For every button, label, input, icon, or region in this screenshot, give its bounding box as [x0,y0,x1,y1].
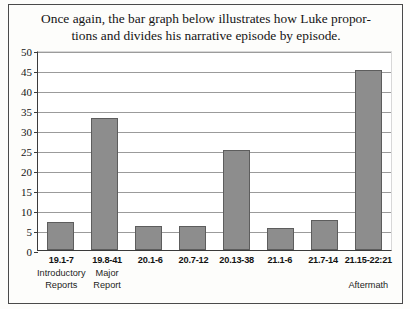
figure-caption: Once again, the bar graph below illustra… [22,11,390,44]
bar-series [38,52,391,250]
bar-slot [215,52,259,250]
x-axis-tick-label: 20.1-6 [129,255,172,267]
y-axis-tick-label: 35 [21,106,32,118]
caption-line-2: tions and divides his narrative episode … [22,28,390,45]
bar-chart: 05101520253035404550 19.1-7IntroductoryR… [15,47,396,299]
x-axis-label-group: 21.1-6.. [258,255,301,292]
x-axis-labels: 19.1-7IntroductoryReports19.8-41MajorRep… [37,255,392,292]
bar-slot [347,52,391,250]
x-axis-description-line: Reports [37,280,86,292]
x-axis-tick-label: 21.15-22:21 [345,255,392,267]
y-axis-tick-label: 25 [21,146,32,158]
x-axis-description-line: Report [86,280,129,292]
x-axis-label-group: 20.7-12.. [172,255,215,292]
bar-slot [170,52,214,250]
y-axis-tick-label: 0 [27,246,33,258]
bar[interactable] [311,220,338,250]
plot-area: 05101520253035404550 [37,51,392,251]
y-axis-tick-label: 45 [21,66,32,78]
bar[interactable] [355,70,382,250]
x-axis-label-group: 20.13-38.. [215,255,258,292]
y-axis-tick-label: 30 [21,126,32,138]
y-axis-tick-label: 20 [21,166,32,178]
bar-slot [259,52,303,250]
bar[interactable] [91,118,118,250]
x-axis-label-group: 20.1-6.. [129,255,172,292]
x-axis-tick-label: 21.7-14 [301,255,344,267]
x-axis-tick-label: 20.7-12 [172,255,215,267]
bar-slot [82,52,126,250]
bar[interactable] [47,222,74,250]
bar-slot [38,52,82,250]
figure-page: Once again, the bar graph below illustra… [0,0,410,309]
y-axis-tick-label: 5 [27,226,33,238]
x-axis-description-line: Aftermath [345,280,392,292]
y-axis-tick [34,252,38,253]
bar-slot [303,52,347,250]
bar[interactable] [223,150,250,250]
x-axis-tick-label: 19.8-41 [86,255,129,267]
bar[interactable] [267,228,294,250]
x-axis-description-line: Major [86,268,129,280]
caption-line-1: Once again, the bar graph below illustra… [41,11,371,26]
x-axis-tick-label: 21.1-6 [258,255,301,267]
x-axis-label-group: 21.15-22:21.Aftermath [345,255,392,292]
x-axis-label-group: 19.1-7IntroductoryReports [37,255,86,292]
y-axis-tick-label: 50 [21,46,32,58]
x-axis-description-line: Introductory [37,268,86,280]
y-axis-tick-label: 10 [21,206,32,218]
x-axis-label-group: 21.7-14.. [301,255,344,292]
y-axis-tick-label: 15 [21,186,32,198]
x-axis-tick-label: 20.13-38 [215,255,258,267]
y-axis-tick-label: 40 [21,86,32,98]
x-axis-tick-label: 19.1-7 [37,255,86,267]
bar[interactable] [179,226,206,250]
bar[interactable] [135,226,162,250]
x-axis-label-group: 19.8-41MajorReport [86,255,129,292]
bar-slot [126,52,170,250]
